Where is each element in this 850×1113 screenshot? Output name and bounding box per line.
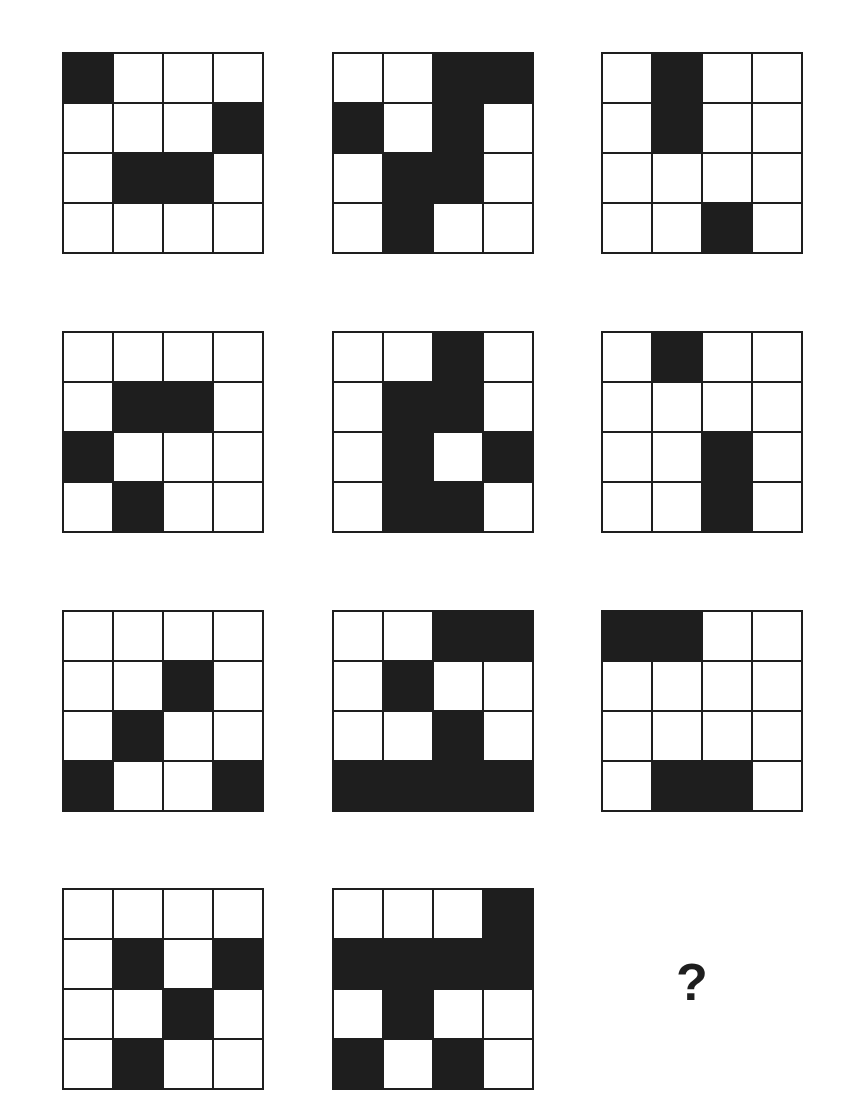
filled-cell [334, 940, 382, 988]
empty-cell [214, 1040, 262, 1088]
empty-cell [164, 433, 212, 481]
filled-cell [484, 54, 532, 102]
grid-panel-6 [601, 331, 803, 533]
empty-cell [64, 890, 112, 938]
grid-panel-9 [601, 610, 803, 812]
filled-cell [64, 54, 112, 102]
empty-cell [334, 712, 382, 760]
empty-cell [114, 662, 162, 710]
empty-cell [753, 762, 801, 810]
empty-cell [334, 204, 382, 252]
filled-cell [703, 483, 751, 531]
empty-cell [384, 54, 432, 102]
empty-cell [164, 612, 212, 660]
filled-cell [114, 483, 162, 531]
filled-cell [434, 154, 482, 202]
filled-cell [484, 890, 532, 938]
empty-cell [484, 383, 532, 431]
filled-cell [334, 1040, 382, 1088]
empty-cell [114, 104, 162, 152]
empty-cell [214, 333, 262, 381]
missing-panel-question-mark: ? [676, 956, 708, 1008]
filled-cell [384, 204, 432, 252]
empty-cell [114, 890, 162, 938]
empty-cell [703, 383, 751, 431]
empty-cell [753, 104, 801, 152]
empty-cell [753, 154, 801, 202]
filled-cell [114, 383, 162, 431]
empty-cell [653, 712, 701, 760]
filled-cell [653, 54, 701, 102]
empty-cell [114, 433, 162, 481]
empty-cell [753, 54, 801, 102]
empty-cell [484, 712, 532, 760]
empty-cell [64, 662, 112, 710]
empty-cell [434, 990, 482, 1038]
filled-cell [434, 333, 482, 381]
empty-cell [334, 990, 382, 1038]
filled-cell [334, 762, 382, 810]
grid-panel-7 [62, 610, 264, 812]
empty-cell [114, 333, 162, 381]
filled-cell [164, 662, 212, 710]
empty-cell [214, 990, 262, 1038]
filled-cell [484, 433, 532, 481]
empty-cell [164, 762, 212, 810]
empty-cell [64, 1040, 112, 1088]
empty-cell [603, 762, 651, 810]
empty-cell [214, 433, 262, 481]
grid-panel-8 [332, 610, 534, 812]
empty-cell [214, 612, 262, 660]
filled-cell [114, 154, 162, 202]
empty-cell [603, 333, 651, 381]
empty-cell [484, 662, 532, 710]
empty-cell [214, 483, 262, 531]
empty-cell [703, 662, 751, 710]
empty-cell [653, 204, 701, 252]
filled-cell [64, 433, 112, 481]
empty-cell [164, 204, 212, 252]
filled-cell [653, 333, 701, 381]
grid-panel-2 [332, 52, 534, 254]
empty-cell [214, 712, 262, 760]
empty-cell [64, 483, 112, 531]
empty-cell [334, 662, 382, 710]
grid-panel-4 [62, 331, 264, 533]
empty-cell [64, 104, 112, 152]
empty-cell [703, 333, 751, 381]
empty-cell [384, 104, 432, 152]
empty-cell [64, 712, 112, 760]
grid-panel-10 [62, 888, 264, 1090]
empty-cell [753, 333, 801, 381]
empty-cell [334, 483, 382, 531]
empty-cell [434, 433, 482, 481]
empty-cell [64, 612, 112, 660]
filled-cell [434, 712, 482, 760]
empty-cell [603, 433, 651, 481]
filled-cell [214, 104, 262, 152]
empty-cell [334, 612, 382, 660]
grid-panel-3 [601, 52, 803, 254]
filled-cell [653, 612, 701, 660]
empty-cell [603, 154, 651, 202]
empty-cell [114, 204, 162, 252]
empty-cell [703, 104, 751, 152]
filled-cell [164, 990, 212, 1038]
filled-cell [434, 612, 482, 660]
empty-cell [64, 940, 112, 988]
empty-cell [753, 433, 801, 481]
empty-cell [603, 104, 651, 152]
filled-cell [484, 612, 532, 660]
empty-cell [753, 612, 801, 660]
filled-cell [114, 712, 162, 760]
filled-cell [434, 54, 482, 102]
empty-cell [64, 154, 112, 202]
filled-cell [214, 762, 262, 810]
empty-cell [164, 712, 212, 760]
empty-cell [434, 204, 482, 252]
empty-cell [653, 154, 701, 202]
empty-cell [484, 333, 532, 381]
empty-cell [334, 54, 382, 102]
filled-cell [384, 383, 432, 431]
filled-cell [164, 154, 212, 202]
